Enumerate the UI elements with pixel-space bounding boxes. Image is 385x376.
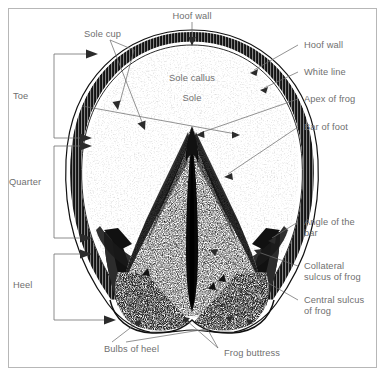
label-central-sulcus-line2: of frog [304,306,331,316]
label-central-sulcus-line1: Central sulcus [304,295,365,305]
label-collateral-sulcus-line2: sulcus of frog [304,272,361,282]
label-heel: Heel [13,280,33,290]
label-sole-cup: Sole cup [84,29,121,39]
hoof-diagram-svg: Hoof wall Sole cup Toe Quarter Heel Sole… [0,0,385,376]
label-bulbs-of-heel: Bulbs of heel [104,344,159,354]
hoof-anatomy-figure: Hoof wall Sole cup Toe Quarter Heel Sole… [0,0,385,376]
label-frog-buttress: Frog buttress [224,348,280,358]
label-hoof-wall-top: Hoof wall [172,11,211,21]
label-collateral-sulcus-line1: Collateral [304,261,344,271]
label-bar-of-foot: Bar of foot [304,122,348,132]
label-hoof-wall-right: Hoof wall [304,40,343,50]
label-white-line: White line [304,67,346,77]
label-angle-of-the-bar-line1: Angle of the [304,217,355,227]
label-sole-callus: Sole callus [169,73,215,83]
label-toe: Toe [13,91,28,101]
label-sole: Sole [182,93,201,103]
label-apex-of-frog: Apex of frog [304,94,355,104]
label-quarter: Quarter [9,177,41,187]
label-angle-of-the-bar-line2: bar [304,228,318,238]
